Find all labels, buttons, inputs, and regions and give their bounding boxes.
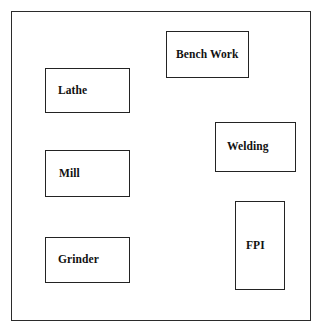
station-box-mill[interactable]: Mill bbox=[45, 150, 130, 197]
station-label-bench-work: Bench Work bbox=[167, 49, 238, 61]
station-label-fpi: FPI bbox=[236, 240, 265, 252]
station-box-lathe[interactable]: Lathe bbox=[45, 68, 130, 113]
station-box-welding[interactable]: Welding bbox=[215, 122, 296, 172]
station-label-welding: Welding bbox=[216, 141, 269, 153]
station-label-lathe: Lathe bbox=[46, 85, 87, 97]
layout-diagram: Bench Work Lathe Welding Mill FPI Grinde… bbox=[0, 0, 328, 335]
station-box-bench-work[interactable]: Bench Work bbox=[166, 31, 249, 78]
station-label-mill: Mill bbox=[46, 168, 80, 180]
station-box-fpi[interactable]: FPI bbox=[235, 201, 285, 290]
station-box-grinder[interactable]: Grinder bbox=[45, 237, 130, 283]
station-label-grinder: Grinder bbox=[46, 254, 99, 266]
